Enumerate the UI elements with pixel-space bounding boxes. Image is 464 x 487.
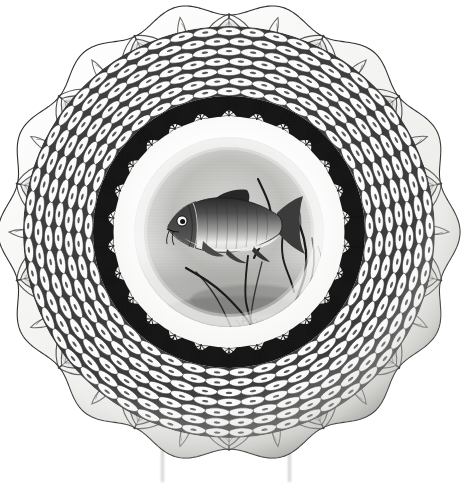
plate-photograph bbox=[0, 0, 464, 487]
image-canvas bbox=[0, 0, 464, 487]
